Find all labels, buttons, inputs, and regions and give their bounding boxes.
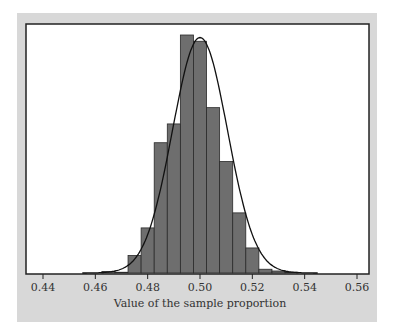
histogram-bar bbox=[220, 162, 233, 273]
histogram-bar bbox=[246, 248, 259, 273]
histogram-bar bbox=[180, 35, 193, 273]
x-tick-label: 0.54 bbox=[292, 281, 317, 294]
x-tick-label: 0.52 bbox=[240, 281, 265, 294]
histogram-chart: 0.440.460.480.500.520.540.56 Value of th… bbox=[0, 0, 399, 332]
histogram-bar bbox=[207, 108, 220, 273]
histogram-bar bbox=[272, 271, 285, 273]
histogram-bar bbox=[115, 272, 128, 273]
x-axis-ticks: 0.440.460.480.500.520.540.56 bbox=[31, 274, 370, 294]
histogram-bar bbox=[233, 213, 246, 273]
x-tick-label: 0.46 bbox=[83, 281, 108, 294]
x-tick-label: 0.44 bbox=[31, 281, 56, 294]
x-tick-label: 0.50 bbox=[188, 281, 213, 294]
x-tick-label: 0.48 bbox=[135, 281, 160, 294]
histogram-bar bbox=[259, 269, 272, 273]
x-axis-label: Value of the sample proportion bbox=[113, 297, 287, 310]
histogram-bar bbox=[193, 41, 206, 273]
x-tick-label: 0.56 bbox=[345, 281, 370, 294]
